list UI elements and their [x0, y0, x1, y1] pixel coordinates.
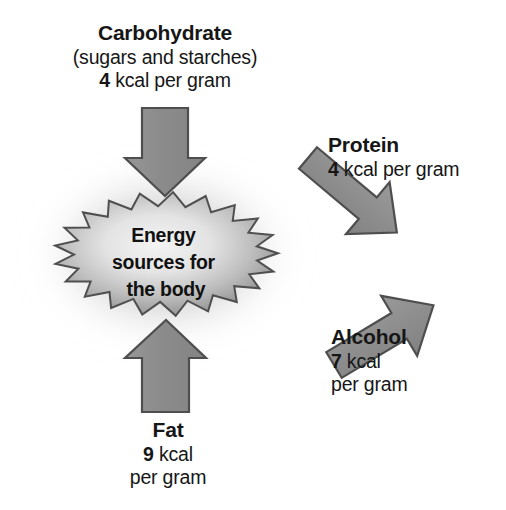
carbohydrate-value: 4	[99, 69, 110, 91]
alcohol-value-line: 7 kcal	[331, 350, 407, 373]
label-fat: Fat 9 kcal per gram	[78, 418, 258, 489]
alcohol-unit-2: per gram	[331, 373, 407, 396]
center-line-3: the body	[127, 278, 206, 300]
protein-unit: kcal per gram	[339, 158, 460, 180]
carbohydrate-value-line: 4 kcal per gram	[0, 69, 330, 92]
carbohydrate-unit: kcal per gram	[110, 69, 231, 91]
label-alcohol: Alcohol 7 kcal per gram	[331, 325, 407, 396]
alcohol-title: Alcohol	[331, 325, 407, 350]
fat-value: 9	[143, 443, 154, 465]
carbohydrate-note: (sugars and starches)	[0, 46, 330, 69]
label-protein: Protein 4 kcal per gram	[328, 133, 459, 181]
fat-value-line: 9 kcal	[78, 443, 258, 466]
fat-unit-2: per gram	[78, 466, 258, 489]
alcohol-unit: kcal	[342, 350, 381, 372]
protein-value: 4	[328, 158, 339, 180]
center-line-1: Energy	[131, 224, 196, 246]
protein-title: Protein	[328, 133, 459, 158]
carbohydrate-title: Carbohydrate	[0, 21, 330, 46]
fat-unit: kcal	[154, 443, 193, 465]
center-line-2: sources for	[112, 251, 216, 273]
fat-title: Fat	[78, 418, 258, 443]
protein-value-line: 4 kcal per gram	[328, 158, 459, 181]
alcohol-value: 7	[331, 350, 342, 372]
label-carbohydrate: Carbohydrate (sugars and starches) 4 kca…	[0, 21, 330, 92]
